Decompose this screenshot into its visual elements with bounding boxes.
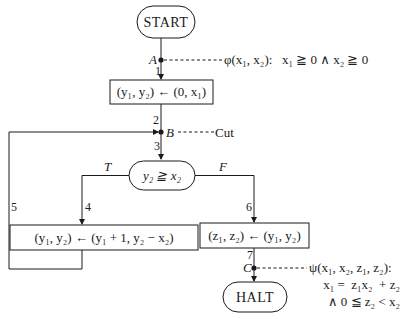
decision-label: y₂ ≧ x₂ xyxy=(141,168,182,183)
flowchart: START A 1 φ(x₁, x₂): x₁ ≧ 0 ∧ x₂ ≧ 0 (y₁… xyxy=(0,0,408,319)
postcondition-psi-line3: ∧ 0 ≦ z₂ < x₂ xyxy=(328,294,400,309)
postcondition-psi-line2: x₁ = z₁x₂ + z₂ xyxy=(323,277,400,292)
point-a-dot xyxy=(158,57,163,62)
cut-label: Cut xyxy=(215,125,234,140)
decision-node: y₂ ≧ x₂ xyxy=(129,161,195,190)
edge-5-loop xyxy=(9,132,158,269)
edge-4-label: 4 xyxy=(85,200,91,214)
edge-6-false xyxy=(195,176,254,223)
edge-1-label: 1 xyxy=(155,64,161,78)
precondition-phi: φ(x₁, x₂): x₁ ≧ 0 ∧ x₂ ≧ 0 xyxy=(224,52,368,67)
start-node: START xyxy=(137,6,195,38)
point-c-dot xyxy=(251,265,256,270)
output-assignment-box: (z₁, z₂) ← (y₁, y₂) xyxy=(200,223,309,248)
edge-5-label: 5 xyxy=(11,200,17,214)
init-assignment-box: (y₁, y₂) ← (0, x₁) xyxy=(110,80,213,104)
loop-assignment-label: (y₁, y₂) ← (y₁ + 1, y₂ − x₂) xyxy=(34,230,173,245)
postcondition-psi-line1: ψ(x₁, x₂, z₁, z₂): xyxy=(309,260,392,275)
edge-3-label: 3 xyxy=(154,139,160,153)
halt-node: HALT xyxy=(223,282,287,312)
output-assignment-label: (z₁, z₂) ← (y₁, y₂) xyxy=(208,228,301,243)
false-branch-label: F xyxy=(218,159,228,174)
point-c-label: C xyxy=(243,260,252,275)
loop-assignment-box: (y₁, y₂) ← (y₁ + 1, y₂ − x₂) xyxy=(10,225,198,250)
point-b-dot xyxy=(158,129,163,134)
halt-label: HALT xyxy=(236,290,274,305)
edge-2-label: 2 xyxy=(153,113,159,127)
start-label: START xyxy=(144,15,189,30)
edge-6-label: 6 xyxy=(246,200,252,214)
point-b-label: B xyxy=(166,125,174,140)
true-branch-label: T xyxy=(104,159,112,174)
init-assignment-label: (y₁, y₂) ← (0, x₁) xyxy=(117,84,206,99)
